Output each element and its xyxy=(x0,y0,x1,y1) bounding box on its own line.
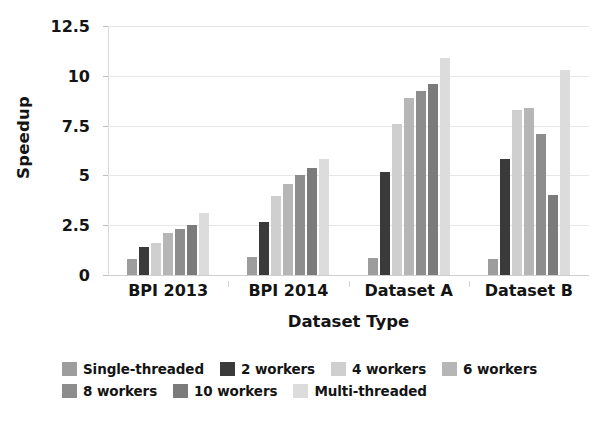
bar-groups xyxy=(108,26,589,275)
bar xyxy=(187,225,197,275)
bar-group-dataset-a xyxy=(349,26,469,275)
legend-label: 2 workers xyxy=(241,361,315,377)
bar xyxy=(500,159,510,275)
y-tick-label-10: 10 xyxy=(68,66,90,85)
legend-item-4-workers[interactable]: 4 workers xyxy=(331,361,426,377)
legend-item-2-workers[interactable]: 2 workers xyxy=(220,361,315,377)
legend-label: 8 workers xyxy=(83,383,157,399)
y-tick-label-2-5: 2.5 xyxy=(62,216,90,235)
legend-item-6-workers[interactable]: 6 workers xyxy=(442,361,537,377)
x-tick-label-bpi-2014: BPI 2014 xyxy=(228,281,348,305)
bar xyxy=(440,58,450,275)
y-tick-label-12-5: 12.5 xyxy=(51,17,90,36)
bar xyxy=(380,172,390,275)
bar xyxy=(524,108,534,275)
bar xyxy=(139,247,149,275)
bar xyxy=(199,213,209,275)
bar xyxy=(127,259,137,275)
legend-label: 6 workers xyxy=(463,361,537,377)
bar xyxy=(307,168,317,275)
bar xyxy=(428,84,438,275)
legend-swatch-icon xyxy=(220,362,235,376)
legend-item-multi-threaded[interactable]: Multi-threaded xyxy=(293,383,426,399)
legend-swatch-icon xyxy=(62,384,77,398)
plot-area xyxy=(108,26,589,275)
legend-label: 10 workers xyxy=(194,383,277,399)
legend-label: Multi-threaded xyxy=(314,383,426,399)
bar xyxy=(392,124,402,275)
bar-group-bpi-2014 xyxy=(228,26,348,275)
bar xyxy=(175,229,185,275)
bar xyxy=(404,98,414,275)
legend-item-single-threaded[interactable]: Single-threaded xyxy=(62,361,204,377)
bar xyxy=(283,184,293,275)
bar xyxy=(416,91,426,275)
x-axis-tick-labels: BPI 2013 BPI 2014 Dataset A Dataset B xyxy=(108,281,589,305)
legend: Single-threaded2 workers4 workers6 worke… xyxy=(62,358,562,402)
bar xyxy=(512,110,522,275)
bar xyxy=(536,134,546,275)
bar-group-dataset-b xyxy=(469,26,589,275)
y-tick-label-7-5: 7.5 xyxy=(62,116,90,135)
bar xyxy=(163,233,173,275)
x-axis-separator xyxy=(349,281,350,287)
bar xyxy=(560,70,570,275)
x-tick-label-bpi-2013: BPI 2013 xyxy=(108,281,228,305)
bar xyxy=(247,257,257,275)
bar xyxy=(259,222,269,275)
gridline-0 xyxy=(108,275,589,276)
y-tick-label-0: 0 xyxy=(79,266,90,285)
x-axis-separator xyxy=(228,281,229,287)
bar xyxy=(368,258,378,275)
x-axis-title: Dataset Type xyxy=(108,312,589,331)
legend-row-2: 8 workers10 workersMulti-threaded xyxy=(62,380,562,402)
legend-item-10-workers[interactable]: 10 workers xyxy=(173,383,277,399)
bar xyxy=(488,259,498,275)
legend-swatch-icon xyxy=(293,384,308,398)
bar xyxy=(295,175,305,275)
y-axis-tick-labels: 02.557.51012.5 xyxy=(0,26,100,275)
speedup-bar-chart: Speedup 02.557.51012.5 BPI 2013 BPI 2014… xyxy=(0,0,597,424)
legend-label: 4 workers xyxy=(352,361,426,377)
legend-swatch-icon xyxy=(442,362,457,376)
legend-row-1: Single-threaded2 workers4 workers6 worke… xyxy=(62,358,562,380)
legend-item-8-workers[interactable]: 8 workers xyxy=(62,383,157,399)
bar xyxy=(271,196,281,275)
bar xyxy=(548,195,558,275)
x-tick-label-dataset-a: Dataset A xyxy=(349,281,469,305)
legend-swatch-icon xyxy=(331,362,346,376)
x-tick-label-dataset-b: Dataset B xyxy=(469,281,589,305)
y-tick-label-5: 5 xyxy=(79,166,90,185)
x-axis-separator xyxy=(469,281,470,287)
legend-label: Single-threaded xyxy=(83,361,204,377)
legend-swatch-icon xyxy=(173,384,188,398)
bar xyxy=(319,159,329,275)
legend-swatch-icon xyxy=(62,362,77,376)
bar-group-bpi-2013 xyxy=(108,26,228,275)
bar xyxy=(151,243,161,275)
